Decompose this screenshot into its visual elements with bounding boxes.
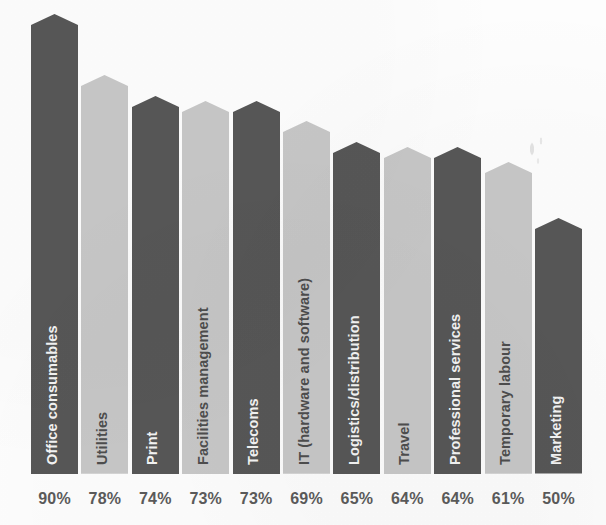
bar-value-label: 69% [283, 490, 330, 508]
bar [283, 121, 330, 474]
bar-group: IT (hardware and software) [283, 121, 330, 474]
bar [384, 147, 431, 474]
bar [434, 147, 481, 474]
bar [333, 142, 380, 474]
bar-value-label: 73% [233, 490, 280, 508]
bar [535, 218, 582, 474]
bar [31, 14, 78, 474]
bar [81, 75, 128, 474]
plot-area: Office consumables90%Utilities78%Print74… [0, 0, 606, 525]
bar-group: Professional services [434, 147, 481, 474]
bar-value-label: 64% [434, 490, 481, 508]
bar-value-label: 78% [81, 490, 128, 508]
bar-value-label: 50% [535, 490, 582, 508]
bar-chart: Office consumables90%Utilities78%Print74… [0, 0, 606, 525]
bar-value-label: 61% [485, 490, 532, 508]
bar-group: Temporary labour [485, 162, 532, 474]
bar [485, 162, 532, 474]
bar-value-label: 90% [31, 490, 78, 508]
bar-group: Facilities management [182, 101, 229, 474]
bar-value-label: 64% [384, 490, 431, 508]
bar-group: Logistics/distribution [333, 142, 380, 474]
bar-value-label: 74% [132, 490, 179, 508]
bar [132, 96, 179, 474]
bar-group: Print [132, 96, 179, 474]
bar-value-label: 65% [333, 490, 380, 508]
bar-group: Marketing [535, 218, 582, 474]
bar [233, 101, 280, 474]
bar [182, 101, 229, 474]
bar-group: Office consumables [31, 14, 78, 474]
bar-value-label: 73% [182, 490, 229, 508]
bar-group: Utilities [81, 75, 128, 474]
bar-group: Travel [384, 147, 431, 474]
bar-group: Telecoms [233, 101, 280, 474]
